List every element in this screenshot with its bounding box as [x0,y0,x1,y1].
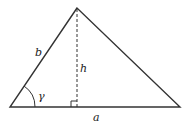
label-height: h [80,62,87,75]
label-side-a: a [93,111,100,124]
label-side-b: b [35,46,42,59]
angle-arc [24,86,35,107]
right-angle-marker [71,101,77,107]
triangle-diagram: b h γ a [0,0,186,127]
label-angle-gamma: γ [38,90,45,103]
